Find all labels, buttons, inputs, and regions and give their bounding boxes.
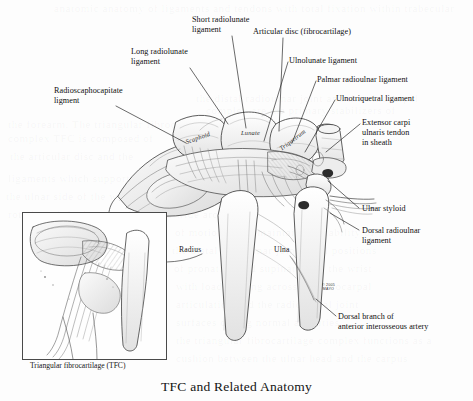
callout-label-dorsal-branch-anterior-interosseous-artery: Dorsal branch of anterior interosseous a… — [338, 312, 429, 332]
callout-label-short-radiolunate-ligament: Short radiolunate ligament — [192, 15, 249, 35]
structure-label-ulna: Ulna — [274, 245, 290, 254]
callout-label-dorsal-radioulnar-ligament: Dorsal radioulnar ligament — [362, 226, 420, 246]
leader-line-ulnar-styloid — [328, 181, 359, 208]
inset-caption: Triangular fibrocartilage (TFC) — [30, 361, 125, 370]
callout-label-articular-disc: Articular disc (fibrocartilage) — [253, 27, 351, 37]
callout-label-palmar-radioulnar-ligament: Palmar radioulnar ligament — [317, 75, 408, 85]
callout-label-ulnotriquetral-ligament: Ulnotriquetral ligament — [336, 94, 414, 104]
callout-label-long-radiolunate-ligament: Long radiolunate ligament — [131, 47, 188, 67]
structure-label-lunate: Lunate — [241, 129, 260, 136]
figure-page: anatomic anatomy of ligaments and tendon… — [0, 0, 473, 401]
copyright-signature: © 2005 MAYO — [322, 283, 335, 291]
callout-label-extensor-carpi-ulnaris-tendon: Extensor carpi ulnaris tendon in sheath — [362, 118, 410, 149]
callout-label-radioscaphocapitate-ligment: Radioscaphocapitate ligment — [54, 86, 123, 106]
callout-label-ulnar-styloid: Ulnar styloid — [362, 204, 406, 214]
callout-label-ulnolunate-ligament: Ulnolunate ligament — [289, 56, 357, 66]
inset-panel-tfc — [22, 212, 167, 360]
leader-line-dorsal-radioulnar-ligament — [330, 213, 359, 230]
figure-title: TFC and Related Anatomy — [0, 379, 473, 395]
structure-label-radius: Radius — [179, 245, 201, 254]
